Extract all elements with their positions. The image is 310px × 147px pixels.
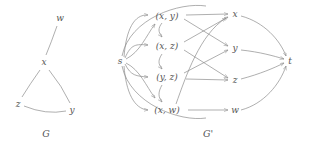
edge-s-bundle-lower [126,63,155,98]
caption-gprime: G' [203,128,213,139]
edge-s-bundle-upper [126,24,155,59]
gprime-pair-yz: (y, z) [156,73,177,82]
edge-x-t [241,16,286,56]
edge-inner-xz-yz [159,54,162,69]
gprime-node-t: t [288,57,292,66]
edge-xy-x [186,14,228,15]
edge-xy-y [184,19,228,46]
edge-yz-y [184,50,228,73]
edge-s-xw [124,66,148,110]
edge-w-t [241,66,286,110]
edge-inner-yz-xw [159,85,162,102]
edge-s-xy [124,15,148,57]
gprime-node-z: z [233,76,238,85]
edge-y-t [241,50,284,59]
gprime-node-s: s [118,57,123,66]
edge-z-t [241,63,284,79]
figure-container: w x z y G [0,0,310,147]
gprime-pair-xw: (x, w) [154,106,180,115]
gprime-node-w: w [231,106,239,115]
gprime-pair-xy: (x, y) [156,12,179,21]
gprime-node-y: y [232,44,237,53]
edge-yz-z [186,79,228,80]
gprime-pair-xz: (x, z) [156,42,179,51]
edge-xz-z [184,50,228,78]
graph-gprime-edges [0,0,310,147]
edge-inner-xy-xz [159,23,162,37]
gprime-node-x: x [232,10,237,19]
edge-s-yz [125,64,148,77]
